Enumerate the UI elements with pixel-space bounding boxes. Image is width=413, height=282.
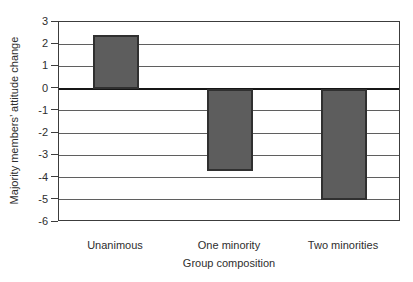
y-tick-label: 1 — [20, 59, 48, 71]
bar-one-minority — [207, 89, 253, 171]
y-tick-label: -5 — [20, 193, 48, 205]
y-tick-label: -2 — [20, 126, 48, 138]
category-label: Two minorities — [273, 239, 413, 251]
y-tick-mark — [51, 65, 58, 66]
bar-unanimous — [93, 35, 139, 88]
plot-area — [58, 21, 400, 221]
y-tick-mark — [51, 198, 58, 199]
y-axis: 3210-1-2-3-4-5-6 — [18, 21, 58, 221]
y-tick-label: -4 — [20, 171, 48, 183]
y-tick-label: 3 — [20, 15, 48, 27]
y-tick-label: -6 — [20, 215, 48, 227]
y-tick-mark — [51, 221, 58, 222]
y-tick-label: -1 — [20, 104, 48, 116]
y-tick-mark — [51, 87, 58, 88]
y-tick-mark — [51, 109, 58, 110]
y-tick-mark — [51, 132, 58, 133]
y-tick-label: 0 — [20, 82, 48, 94]
y-tick-label: -3 — [20, 148, 48, 160]
y-tick-mark — [51, 154, 58, 155]
y-tick-label: 2 — [20, 37, 48, 49]
x-axis-title: Group composition — [149, 257, 309, 269]
y-tick-mark — [51, 21, 58, 22]
y-tick-mark — [51, 43, 58, 44]
x-axis: UnanimousOne minorityTwo minorities — [58, 239, 400, 253]
bar-chart-figure: Majority members’ attitude change 3210-1… — [0, 0, 413, 282]
bar-two-minorities — [321, 89, 367, 200]
y-tick-mark — [51, 176, 58, 177]
